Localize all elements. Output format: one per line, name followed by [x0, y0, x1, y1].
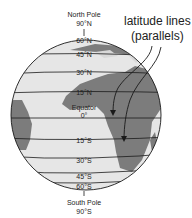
- latitude-label-30n: 30°N: [76, 69, 92, 76]
- latitude-label-15n: 15°N: [76, 89, 92, 96]
- south-pole-label: South Pole: [67, 199, 101, 206]
- globe-diagram: North Pole 90°N 60°N 45°N 30°N 15°N Equa…: [0, 0, 192, 218]
- latitude-label-30s: 30°S: [76, 157, 91, 164]
- north-pole-degree: 90°N: [76, 20, 92, 27]
- callout-label: latitude lines (parallels): [124, 14, 191, 44]
- latitude-label-45n: 45°N: [76, 51, 92, 58]
- equator-degree: 0°: [81, 112, 88, 119]
- latitude-label-60s: 60°S: [76, 183, 91, 190]
- latitude-label-15s: 15°S: [76, 137, 91, 144]
- equator-label: Equator: [72, 104, 97, 111]
- north-pole-label: North Pole: [67, 11, 100, 18]
- callout-line-1: latitude lines: [124, 14, 191, 29]
- callout-line-2: (parallels): [124, 29, 191, 44]
- latitude-label-60n: 60°N: [76, 37, 92, 44]
- south-pole-degree: 90°S: [76, 208, 91, 215]
- latitude-label-45s: 45°S: [76, 173, 91, 180]
